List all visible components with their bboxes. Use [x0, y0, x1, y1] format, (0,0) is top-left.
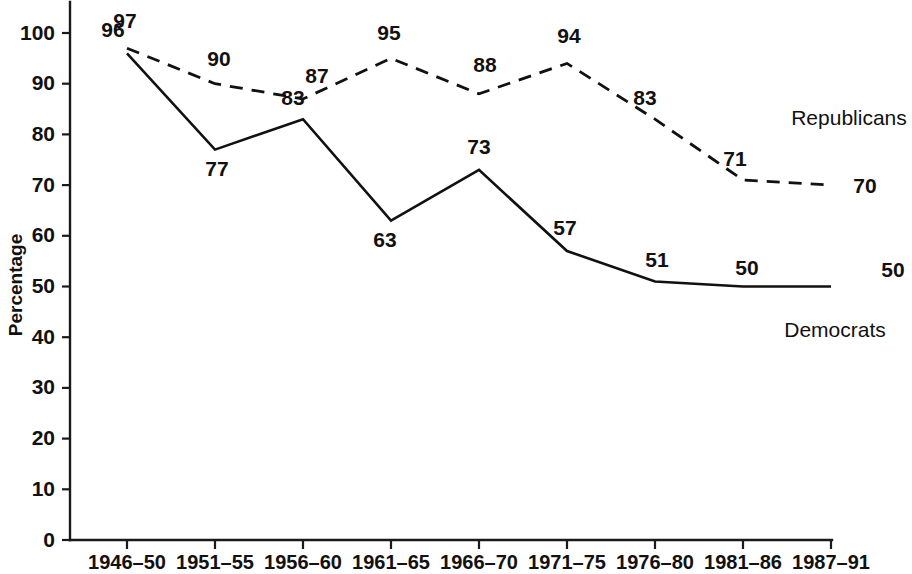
data-point-label: 57 — [553, 216, 576, 239]
x-tick-label: 1956–60 — [264, 551, 342, 573]
data-point-label: 90 — [207, 47, 230, 70]
y-tick-label: 90 — [32, 71, 55, 94]
x-tick-label: 1961–65 — [352, 551, 430, 573]
y-axis-title: Percentage — [5, 234, 26, 336]
x-axis-ticks — [127, 540, 831, 549]
data-point-label: 63 — [373, 228, 396, 251]
data-point-label: 71 — [723, 147, 747, 170]
data-point-label: 73 — [467, 135, 490, 158]
data-point-label: 70 — [853, 174, 876, 197]
x-tick-label: 1976–80 — [616, 551, 694, 573]
data-point-label: 96 — [101, 18, 124, 41]
data-point-label: 51 — [645, 248, 669, 271]
data-point-label: 94 — [557, 24, 581, 47]
data-point-label: 50 — [735, 256, 758, 279]
y-tick-label: 60 — [32, 223, 55, 246]
data-point-label: 95 — [377, 21, 401, 44]
series-label-republicans: Republicans — [791, 106, 907, 129]
y-tick-label: 30 — [32, 375, 55, 398]
y-tick-label: 20 — [32, 426, 55, 449]
x-tick-label: 1946–50 — [88, 551, 166, 573]
x-tick-label: 1971–75 — [528, 551, 606, 573]
y-tick-label: 40 — [32, 325, 55, 348]
x-axis-tick-labels: 1946–501951–551956–601961–651966–701971–… — [88, 551, 870, 573]
y-tick-label: 100 — [20, 21, 55, 44]
y-tick-label: 10 — [32, 477, 55, 500]
data-point-label: 83 — [281, 86, 304, 109]
data-point-label: 83 — [633, 86, 656, 109]
y-tick-label: 80 — [32, 122, 55, 145]
x-tick-label: 1966–70 — [440, 551, 518, 573]
y-tick-label: 50 — [32, 274, 55, 297]
data-point-label: 87 — [305, 64, 328, 87]
y-tick-label: 70 — [32, 173, 55, 196]
x-tick-label: 1951–55 — [176, 551, 254, 573]
data-point-label: 77 — [205, 157, 228, 180]
line-chart: 0102030405060708090100 1946–501951–55195… — [0, 0, 912, 574]
data-point-label: 50 — [881, 258, 904, 281]
data-point-label: 88 — [473, 53, 497, 76]
y-tick-label: 0 — [43, 528, 55, 551]
chart-canvas: 0102030405060708090100 1946–501951–55195… — [0, 0, 912, 574]
x-tick-label: 1981–86 — [704, 551, 782, 573]
axes-group — [70, 2, 832, 540]
x-tick-label: 1987–91 — [792, 551, 870, 573]
series-label-democrats: Democrats — [784, 318, 886, 341]
